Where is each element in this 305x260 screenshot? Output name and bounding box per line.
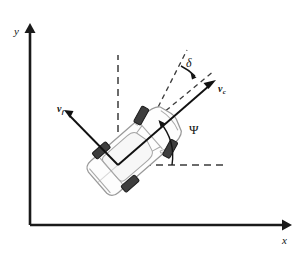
vector-vc-label-sub: c bbox=[223, 88, 226, 96]
x-axis-label: x bbox=[282, 235, 287, 246]
vector-vf-shaft bbox=[69, 115, 118, 165]
psi-angle-label: Ψ bbox=[189, 123, 199, 136]
delta-angle-label: δ bbox=[186, 57, 192, 69]
vehicle-kinematics-diagram: y x vc vf δ Ψ bbox=[0, 0, 305, 260]
vector-vf-label-base: v bbox=[57, 103, 61, 114]
x-axis-arrowhead bbox=[282, 220, 292, 231]
vector-vc-arrowhead bbox=[204, 80, 217, 89]
vector-vc-label: vc bbox=[218, 84, 226, 94]
y-axis-label: y bbox=[14, 26, 19, 37]
delta-angle-arrowhead bbox=[191, 73, 197, 80]
y-axis-arrowhead bbox=[25, 23, 36, 33]
vector-vf-label-sub: f bbox=[62, 108, 64, 116]
vector-vf bbox=[64, 110, 118, 165]
vector-vc-label-base: v bbox=[218, 83, 222, 94]
vector-vf-label: vf bbox=[57, 104, 64, 114]
diagram-canvas bbox=[0, 0, 305, 260]
